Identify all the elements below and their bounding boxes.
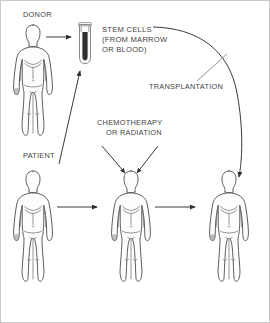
chemotherapy-label-line2: OR RADIATION [106, 128, 162, 137]
diagram-container: DONOR STEM CELLS (FROM MARROW OR BLOOD) … [0, 0, 270, 323]
transplantation-label: TRANSPLANTATION [149, 82, 223, 91]
donor-label: DONOR [23, 10, 52, 19]
donor-figure [14, 25, 53, 135]
arrow-chemo-right [137, 146, 158, 173]
chemotherapy-label-line1: CHEMOTHERAPY [97, 118, 162, 127]
arrow-patient-to-tube [59, 71, 80, 164]
stem-cells-label-line3: OR BLOOD) [102, 45, 147, 54]
patient-treated-figure [112, 171, 151, 281]
arrow-chemo-left [102, 146, 125, 173]
test-tube [79, 23, 92, 64]
patient-figure [14, 171, 53, 281]
transplantation-leader-line [197, 54, 227, 81]
stem-cell-transplant-diagram: DONOR STEM CELLS (FROM MARROW OR BLOOD) … [1, 1, 270, 323]
stem-cells-label-line2: (FROM MARROW [102, 35, 168, 44]
stem-cells-label-line1: STEM CELLS [102, 25, 152, 34]
arrow-transplantation-curve [153, 27, 242, 177]
patient-label: PATIENT [23, 151, 55, 160]
patient-transplanted-figure [210, 171, 249, 281]
